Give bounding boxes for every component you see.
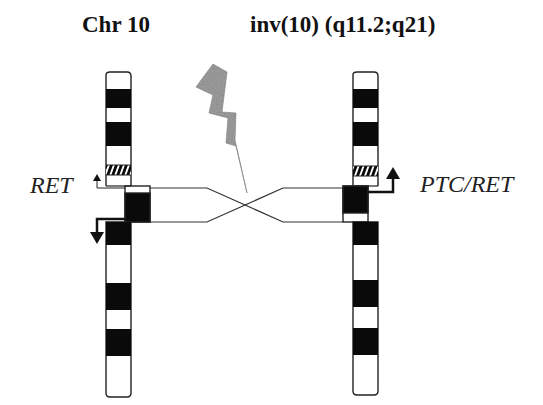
chromosome-diagram [0,0,543,405]
inversion-cross-lines [150,188,343,222]
lightning-bolt-icon [196,64,247,193]
chromosome-normal [106,72,150,397]
chromosome-inverted [343,72,378,395]
